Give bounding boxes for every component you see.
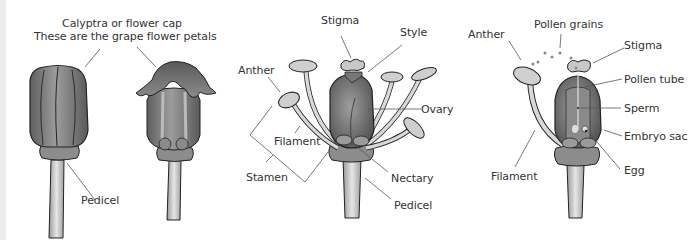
opening-bud [136,62,216,220]
pedicel-label-2: Pedicel [394,199,432,212]
pollen-grains-label: Pollen grains [534,18,603,31]
egg-label: Egg [624,164,645,177]
ovary-label: Ovary [421,103,453,116]
stigma-label-3: Stigma [624,39,662,52]
calyptra-leader-right [137,47,156,67]
filament-label-3: Filament [491,170,537,183]
stamen-label: Stamen [246,171,288,184]
calyptra-leader-left [85,49,100,67]
embryo-sac-label: Embryo sac [624,130,687,143]
style-label: Style [400,26,427,39]
anther-label-2: Anther [238,64,274,77]
pedicel-label-1: Pedicel [81,194,119,207]
filament-label-2: Filament [274,135,320,148]
calyptra-label-line1: Calyptra or flower cap [42,17,202,30]
stigma-label-2: Stigma [321,14,359,27]
nectary-label: Nectary [391,172,433,185]
anther-label-3: Anther [468,28,504,41]
closed-bud [30,66,88,239]
calyptra-label-line2: These are the grape flower petals [34,30,210,43]
pollen-tube-label: Pollen tube [624,73,684,86]
pollinated-flower [511,52,601,219]
sperm-label: Sperm [624,102,659,115]
